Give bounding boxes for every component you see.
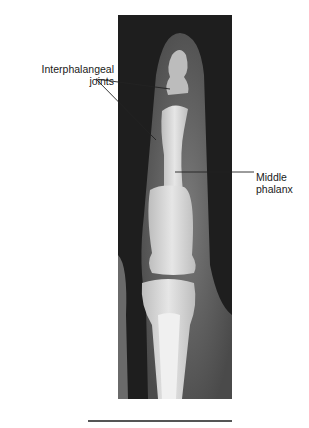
label-line: joints [20,75,114,87]
label-line: phalanx [256,183,293,195]
label-middle-phalanx: Middle phalanx [256,171,293,195]
horizontal-rule [88,420,232,422]
finger-xray-image [118,15,232,399]
figure: Interphalangeal joints Middle phalanx [0,0,309,428]
label-line: Interphalangeal [20,63,114,75]
label-line: Middle [256,171,293,183]
label-interphalangeal-joints: Interphalangeal joints [20,63,114,87]
